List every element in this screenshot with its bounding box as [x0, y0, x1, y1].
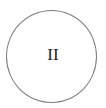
node-label: II [0, 45, 106, 65]
